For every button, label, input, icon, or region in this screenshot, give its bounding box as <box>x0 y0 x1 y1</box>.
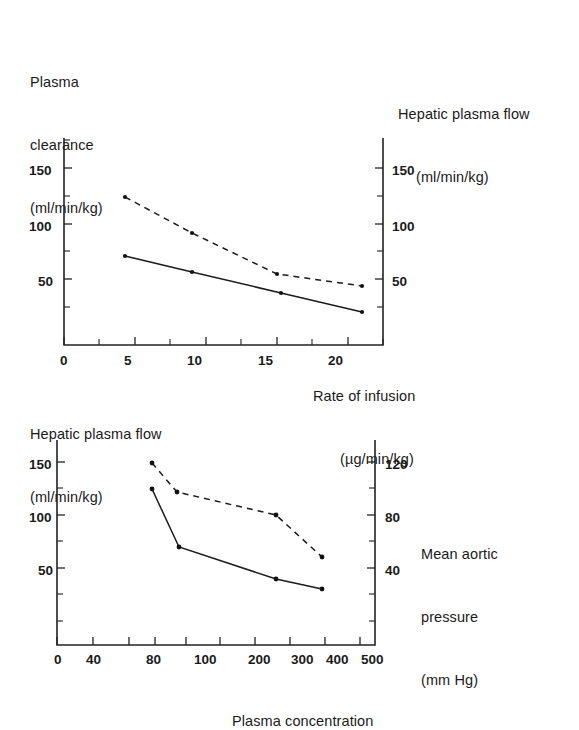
figure-canvas: Plasma clearance (ml/min/kg) Hepatic pla… <box>0 0 579 730</box>
top-solid-point-4 <box>360 310 364 314</box>
bottom-solid-point-4 <box>320 587 325 592</box>
top-solid-point-3 <box>279 291 283 295</box>
top-dashed-point-3 <box>275 272 279 276</box>
top-dashed-point-4 <box>360 284 364 288</box>
top-dashed-line <box>125 197 362 286</box>
bottom-dashed-point-2 <box>175 490 180 495</box>
bottom-dashed-point-3 <box>274 513 279 518</box>
top-series-plasma-clearance-solid <box>123 254 364 314</box>
top-series-hepatic-plasma-flow-dashed <box>123 195 364 288</box>
top-axis-frame <box>64 138 383 345</box>
top-panel-axes <box>64 138 383 345</box>
top-solid-line <box>125 256 362 312</box>
bottom-dashed-point-4 <box>320 555 325 560</box>
plot-vector-layer <box>0 0 579 730</box>
bottom-solid-line <box>152 489 322 589</box>
top-dashed-point-2 <box>190 231 194 235</box>
bottom-solid-point-1 <box>150 487 155 492</box>
top-dashed-point-1 <box>123 195 127 199</box>
bottom-axis-frame <box>57 440 375 645</box>
bottom-series-hepatic-plasma-flow-solid <box>150 487 325 592</box>
bottom-solid-point-3 <box>274 577 279 582</box>
bottom-dashed-point-1 <box>150 461 155 466</box>
bottom-series-mean-aortic-pressure-dashed <box>150 461 325 560</box>
top-solid-point-2 <box>190 270 194 274</box>
top-solid-point-1 <box>123 254 127 258</box>
bottom-solid-point-2 <box>177 545 182 550</box>
bottom-panel-axes <box>57 440 375 645</box>
